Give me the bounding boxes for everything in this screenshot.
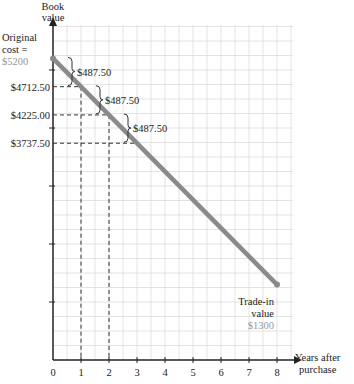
x-tick-label: 0 xyxy=(50,367,55,378)
y-value-label: $4225.00 xyxy=(11,110,50,121)
original-cost-value: $5200 xyxy=(2,56,28,67)
y-value-label: $4712.50 xyxy=(11,82,50,93)
axis-ticks xyxy=(49,70,277,363)
y-axis-title: Book xyxy=(42,1,66,12)
x-tick-label: 2 xyxy=(106,367,111,378)
decrement-label: $487.50 xyxy=(77,67,111,78)
x-tick-label: 8 xyxy=(274,367,279,378)
x-axis-title: Years after xyxy=(295,352,341,363)
book-value-chart: 012345678$4712.50$4225.00$3737.50$487.50… xyxy=(0,0,354,384)
start-point xyxy=(50,55,56,61)
x-tick-label: 7 xyxy=(246,367,251,378)
x-tick-label: 5 xyxy=(190,367,195,378)
decrement-label: $487.50 xyxy=(105,95,139,106)
original-cost-label: cost = xyxy=(2,44,28,55)
trade-in-value: $1300 xyxy=(248,320,274,331)
x-tick-label: 3 xyxy=(134,367,139,378)
trade-in-label: value xyxy=(251,308,274,319)
x-tick-label: 1 xyxy=(78,367,83,378)
y-axis-title: value xyxy=(42,12,65,23)
end-point xyxy=(274,282,280,288)
trade-in-label: Trade-in xyxy=(238,296,275,307)
x-tick-label: 6 xyxy=(218,367,223,378)
x-tick-label: 4 xyxy=(162,367,168,378)
original-cost-label: Original xyxy=(2,32,37,43)
y-value-label: $3737.50 xyxy=(11,138,50,149)
decrement-label: $487.50 xyxy=(133,123,167,134)
x-axis-title: purchase xyxy=(299,364,337,375)
